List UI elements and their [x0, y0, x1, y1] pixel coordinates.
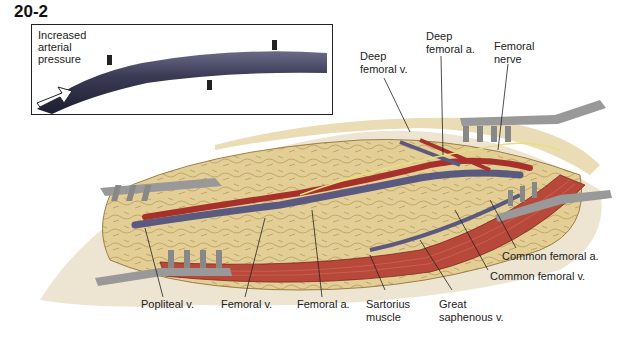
vessel-graft-illustration [32, 25, 332, 114]
label-femoral-a: Femoral a. [297, 298, 350, 311]
clip-icon [272, 40, 277, 50]
clip-icon [107, 55, 112, 65]
label-deep-femoral-a: Deepfemoral a. [426, 30, 475, 56]
clip-icon [207, 80, 212, 90]
label-femoral-v: Femoral v. [221, 298, 272, 311]
label-deep-femoral-v: Deepfemoral v. [360, 50, 407, 76]
label-sartorius-muscle: Sartoriusmuscle [366, 298, 410, 324]
label-great-saphenous-v: Greatsaphenous v. [439, 298, 504, 324]
inset-vessel-panel: Increased arterial pressure [31, 24, 333, 115]
label-femoral-nerve: Femoralnerve [494, 40, 534, 66]
label-popliteal-v: Popliteal v. [141, 298, 194, 311]
label-common-femoral-v: Common femoral v. [490, 270, 585, 283]
label-common-femoral-a: Common femoral a. [502, 250, 599, 263]
